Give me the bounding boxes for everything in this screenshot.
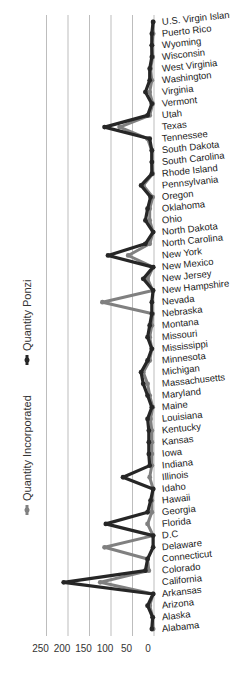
category-label: Iowa	[161, 446, 183, 459]
data-point-marker	[151, 592, 156, 597]
legend-incorporated-marker-icon	[25, 508, 30, 513]
data-point-marker	[145, 113, 150, 118]
data-point-marker	[149, 510, 154, 515]
data-point-marker	[149, 31, 154, 36]
category-label: Ohio	[161, 212, 182, 225]
data-point-marker	[145, 510, 150, 515]
data-point-marker	[139, 183, 144, 188]
data-point-marker	[147, 66, 152, 71]
data-point-marker	[145, 206, 150, 211]
data-point-marker	[139, 370, 144, 375]
legend-ponzi-marker-icon	[25, 358, 30, 363]
data-point-marker	[149, 346, 154, 351]
data-point-marker	[103, 522, 108, 527]
category-label: D.C	[161, 528, 179, 541]
data-point-marker	[126, 253, 131, 258]
data-point-marker	[145, 358, 150, 363]
data-point-marker	[148, 195, 153, 200]
data-point-marker	[149, 405, 154, 410]
data-point-marker	[151, 545, 156, 550]
data-point-marker	[151, 265, 156, 270]
data-point-marker	[145, 335, 150, 340]
data-point-marker	[147, 475, 152, 480]
data-point-marker	[147, 463, 152, 468]
data-point-marker	[148, 498, 153, 503]
data-point-marker	[145, 522, 150, 527]
data-point-marker	[149, 160, 154, 165]
data-point-marker	[143, 568, 148, 573]
tick-label-0: 0	[145, 643, 151, 654]
data-point-marker	[147, 136, 152, 141]
data-point-marker	[149, 300, 154, 305]
tick-label-50: 50	[121, 643, 133, 654]
data-point-marker	[151, 20, 156, 25]
data-point-marker	[145, 603, 150, 608]
gridlines	[47, 15, 155, 636]
data-point-marker	[149, 627, 154, 632]
data-point-marker	[146, 452, 151, 457]
data-point-marker	[143, 90, 148, 95]
tick-label-200: 200	[54, 643, 71, 654]
data-point-marker	[147, 78, 152, 83]
line-quantity-incorporated	[100, 22, 153, 629]
data-point-marker	[102, 545, 107, 550]
series-lines	[61, 20, 155, 632]
legend-incorporated-label: Quantity Incorporated	[21, 395, 33, 501]
data-point-marker	[117, 125, 122, 130]
tick-label-150: 150	[75, 643, 92, 654]
data-point-marker	[121, 475, 126, 480]
legend: Quantity Incorporated Quantity Ponzi	[21, 279, 33, 515]
data-point-marker	[106, 253, 111, 258]
tick-label-100: 100	[97, 643, 114, 654]
data-point-marker	[149, 43, 154, 48]
data-point-marker	[149, 148, 154, 153]
data-point-marker	[145, 381, 150, 386]
ponzi-vs-incorporated-chart: AlabamaAlaskaArizonaArkansasCaliforniaCo…	[0, 0, 230, 684]
data-point-marker	[151, 230, 156, 235]
state-labels: AlabamaAlaskaArizonaArkansasCaliforniaCo…	[161, 8, 230, 634]
data-point-marker	[147, 323, 152, 328]
category-label: Utah	[161, 107, 182, 120]
data-point-marker	[151, 288, 156, 293]
data-point-marker	[149, 101, 154, 106]
data-point-marker	[141, 381, 146, 386]
data-point-marker	[145, 416, 150, 421]
data-point-marker	[146, 440, 151, 445]
data-point-marker	[100, 300, 105, 305]
data-point-marker	[145, 393, 150, 398]
data-point-marker	[149, 171, 154, 176]
data-point-marker	[102, 125, 107, 130]
value-axis-ticks: 250200150100500	[32, 643, 151, 654]
data-point-marker	[151, 487, 156, 492]
data-point-marker	[145, 557, 150, 562]
data-point-marker	[151, 533, 156, 538]
category-label: Florida	[161, 515, 192, 529]
data-point-marker	[141, 276, 146, 281]
data-point-marker	[149, 55, 154, 60]
data-point-marker	[143, 218, 148, 223]
data-point-marker	[98, 580, 103, 585]
legend-ponzi-label: Quantity Ponzi	[21, 279, 33, 351]
tick-label-250: 250	[32, 643, 49, 654]
data-point-marker	[61, 580, 66, 585]
data-point-marker	[146, 428, 151, 433]
data-point-marker	[149, 311, 154, 316]
data-point-marker	[143, 241, 148, 246]
data-point-marker	[150, 615, 155, 620]
